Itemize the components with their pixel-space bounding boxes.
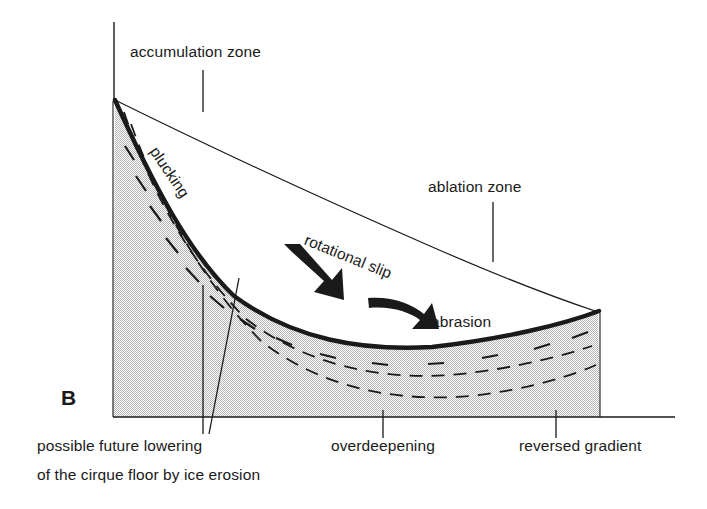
label-future-lowering-line1: possible future lowering — [37, 438, 202, 454]
figure-canvas: accumulation zone ablation zone plucking… — [0, 0, 707, 509]
label-abrasion: abrasion — [431, 314, 491, 330]
label-accumulation-zone: accumulation zone — [130, 44, 261, 60]
label-ablation-zone: ablation zone — [428, 179, 522, 195]
panel-label-b: B — [61, 387, 76, 409]
label-reversed-gradient: reversed gradient — [519, 438, 641, 454]
rotational-slip-arrow-lower — [368, 298, 439, 329]
label-overdeepening: overdeepening — [331, 438, 435, 454]
label-future-lowering-line2: of the cirque floor by ice erosion — [37, 467, 260, 483]
